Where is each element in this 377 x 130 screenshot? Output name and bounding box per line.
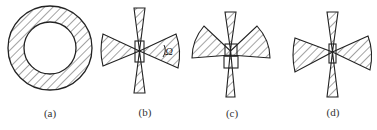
panel-b-label: (b) (139, 106, 152, 118)
panel-c-antenna (192, 12, 270, 97)
figure-canvas (0, 0, 377, 130)
omega-angle-symbol: Ω (165, 45, 173, 57)
panel-a-label: (a) (44, 107, 56, 119)
panel-a-ring (8, 6, 92, 90)
panel-d-label: (d) (327, 106, 340, 118)
panel-d-antenna (293, 12, 372, 97)
panel-c-label: (c) (226, 107, 238, 119)
